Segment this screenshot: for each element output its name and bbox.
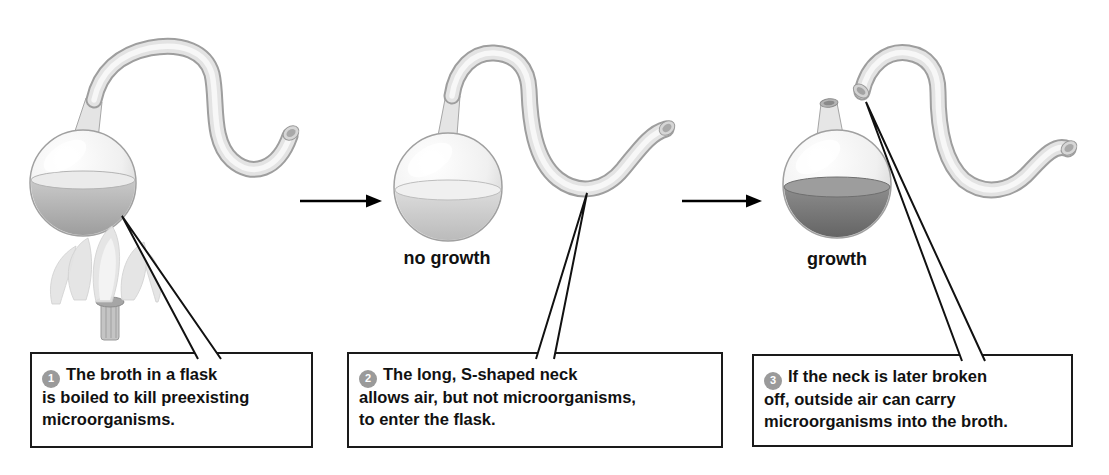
caption-box-1: 1The broth in a flask is boiled to kill … [30, 352, 313, 448]
step-3-badge: 3 [764, 372, 782, 390]
flow-arrow-2 [682, 195, 762, 208]
flask-stage-1 [29, 46, 302, 340]
caption-box-2: 2The long, S-shaped neck allows air, but… [347, 352, 723, 448]
flask-stage-3 [782, 53, 1080, 243]
step-2-badge: 2 [359, 370, 377, 388]
step-3-caption: If the neck is later broken off, outside… [764, 367, 1008, 430]
caption-box-3: 3If the neck is later broken off, outsid… [752, 354, 1073, 447]
flow-arrow-1 [300, 195, 382, 208]
flask2-broth-surface [395, 180, 501, 200]
growth-label: growth [772, 249, 902, 270]
bunsen-burner-icon [96, 297, 124, 340]
flask-stage-2 [393, 53, 678, 246]
step-1-caption: The broth in a flask is boiled to kill p… [42, 365, 249, 428]
step-2-caption: The long, S-shaped neck allows air, but … [359, 365, 636, 428]
step-1-badge: 1 [42, 370, 60, 388]
flask1-broth-surface [31, 171, 135, 189]
no-growth-label: no growth [382, 248, 512, 269]
flame-icon [50, 226, 161, 304]
pasteur-experiment-figure: no growth growth 1The broth in a flask i… [0, 0, 1109, 475]
flask3-broth-surface [784, 177, 890, 197]
